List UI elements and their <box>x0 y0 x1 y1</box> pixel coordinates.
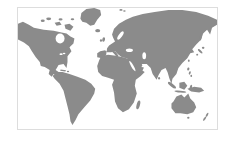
sri-lanka-shape <box>158 77 160 80</box>
south-america-shape <box>53 72 96 125</box>
australia-shape <box>171 94 196 115</box>
world-map <box>18 8 217 129</box>
world-map-frame <box>17 7 218 130</box>
hudson-bay <box>56 34 65 44</box>
philippines-islands <box>187 67 192 77</box>
black-sea <box>126 49 133 53</box>
indonesia-islands <box>167 81 193 93</box>
new-zealand-islands <box>202 112 209 121</box>
tasmania-shape <box>187 117 189 119</box>
svalbard-islands <box>119 9 125 12</box>
japan-islands <box>196 47 204 56</box>
madagascar-shape <box>136 100 142 109</box>
screenshot-canvas <box>0 0 232 146</box>
caspian-sea <box>142 52 146 59</box>
greenland-shape <box>80 8 101 26</box>
arctic-islands <box>41 17 74 30</box>
british-isles <box>100 37 106 42</box>
caribbean-islands <box>60 69 69 72</box>
north-america-shape <box>18 22 74 77</box>
iceland-shape <box>95 29 100 32</box>
taiwan-shape <box>188 59 190 61</box>
